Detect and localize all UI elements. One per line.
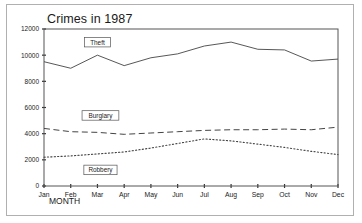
- x-tick-label: Mar: [92, 191, 104, 198]
- y-tick-label: 8000: [25, 78, 40, 85]
- x-tick-label: Jun: [172, 191, 183, 198]
- y-tick-label: 6000: [25, 104, 40, 111]
- y-tick-label: 12000: [21, 25, 39, 32]
- y-tick-label: 10000: [21, 52, 39, 59]
- series-label-robbery: Robbery: [84, 165, 117, 175]
- x-tick-label: Sep: [252, 191, 264, 199]
- x-axis-title: MONTH: [49, 196, 80, 206]
- x-tick-label: Dec: [332, 191, 345, 198]
- y-tick-label: 4000: [25, 130, 40, 137]
- data-series-group: [44, 42, 338, 157]
- series-line-robbery: [44, 139, 338, 157]
- x-tick-label: Aug: [225, 191, 237, 199]
- series-label-burglary: Burglary: [82, 111, 119, 121]
- series-label-text: Burglary: [89, 112, 114, 120]
- series-label-text: Robbery: [88, 166, 113, 174]
- y-tick-label: 0: [35, 182, 39, 189]
- x-tick-label: Nov: [305, 191, 318, 198]
- series-line-burglary: [44, 127, 338, 134]
- series-label-text: Theft: [90, 39, 105, 46]
- x-tick-label: Oct: [279, 191, 290, 198]
- crimes-line-chart: 020004000600080001000012000 JanFebMarApr…: [7, 5, 355, 217]
- series-label-theft: Theft: [84, 37, 110, 47]
- y-tick-label: 2000: [25, 156, 40, 163]
- plot-area-border: [44, 29, 338, 186]
- x-axis-tick-labels: JanFebMarAprMayJunJulAugSepOctNovDec: [39, 191, 345, 199]
- chart-frame: Crimes in 1987 0200040006000800010000120…: [6, 4, 354, 216]
- x-tick-label: May: [144, 191, 157, 199]
- y-axis-tick-labels: 020004000600080001000012000: [21, 25, 39, 189]
- series-inline-labels: TheftBurglaryRobbery: [82, 37, 119, 174]
- x-tick-label: Jul: [200, 191, 209, 198]
- x-tick-label: Apr: [119, 191, 130, 199]
